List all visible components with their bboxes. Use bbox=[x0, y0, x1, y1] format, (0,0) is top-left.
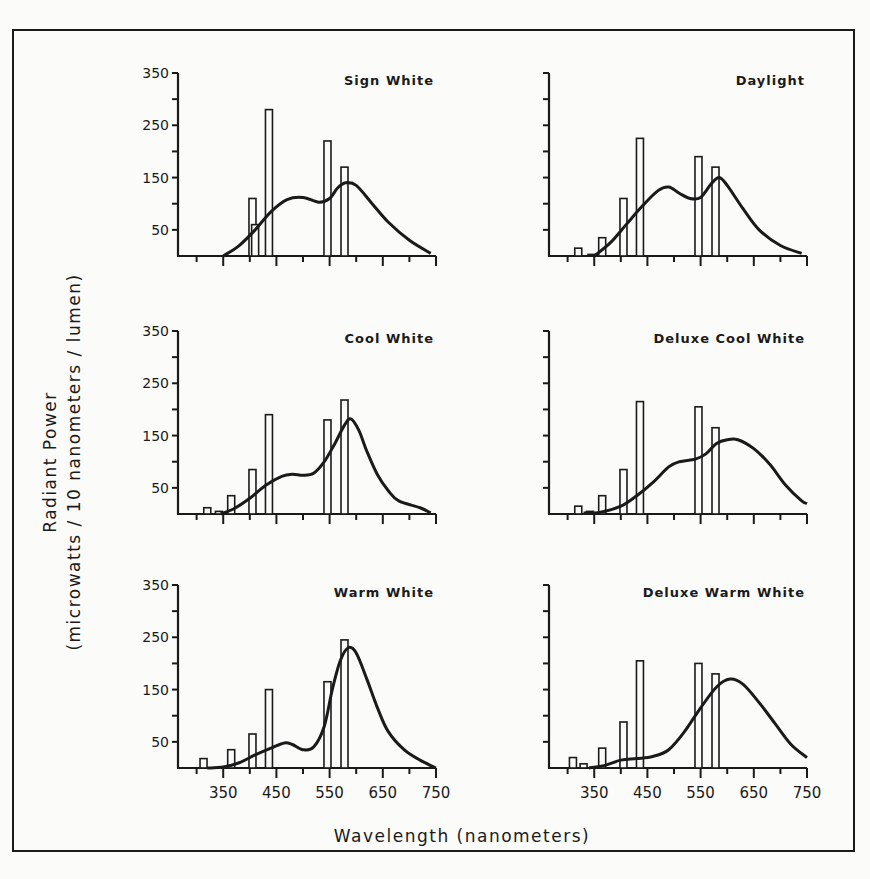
x-tick-label: 550 bbox=[315, 784, 344, 802]
panel-title: Deluxe Warm White bbox=[643, 585, 805, 600]
panel-title: Deluxe Cool White bbox=[653, 331, 805, 346]
x-tick-label: 550 bbox=[686, 784, 715, 802]
x-tick-label: 650 bbox=[368, 784, 397, 802]
spectral-line-bar bbox=[265, 415, 272, 514]
y-tick-label: 150 bbox=[142, 428, 169, 444]
spectral-line-bar bbox=[712, 428, 719, 514]
panel-title: Sign White bbox=[344, 73, 434, 88]
y-tick-label: 250 bbox=[142, 629, 169, 645]
x-tick-label: 750 bbox=[793, 784, 822, 802]
y-tick-label: 350 bbox=[142, 65, 169, 81]
y-tick-label: 50 bbox=[151, 222, 169, 238]
spectral-line-bar bbox=[569, 758, 576, 768]
spectral-line-bar bbox=[580, 764, 587, 768]
y-tick-label: 150 bbox=[142, 170, 169, 186]
spectral-line-bar bbox=[204, 508, 211, 514]
spectral-line-bar bbox=[341, 400, 348, 514]
spectral-line-bar bbox=[265, 110, 272, 256]
x-tick-label: 350 bbox=[209, 784, 238, 802]
panel-title: Warm White bbox=[334, 585, 434, 600]
spectral-plots: 35025015050Sign WhiteDaylight35025015050… bbox=[0, 0, 870, 879]
panel-cool-white: 35025015050Cool White bbox=[142, 323, 436, 524]
y-axis-label: Radiant Power (microwatts / 10 nanometer… bbox=[38, 273, 86, 650]
x-tick-label: 450 bbox=[262, 784, 291, 802]
panel-deluxe-cool-white: Deluxe Cool White bbox=[543, 331, 807, 524]
y-tick-label: 350 bbox=[142, 577, 169, 593]
spectral-line-bar bbox=[575, 248, 582, 256]
y-tick-label: 150 bbox=[142, 682, 169, 698]
spectral-line-bar bbox=[249, 734, 256, 768]
spectral-line-bar bbox=[265, 690, 272, 768]
spectral-line-bar bbox=[341, 167, 348, 256]
y-axis-label-line2: (microwatts / 10 nanometers / lumen) bbox=[62, 273, 86, 650]
spectral-line-bar bbox=[636, 138, 643, 256]
panel-sign-white: 35025015050Sign White bbox=[142, 65, 436, 266]
x-tick-label: 450 bbox=[633, 784, 662, 802]
x-tick-label: 750 bbox=[422, 784, 451, 802]
panel-warm-white: 35025015050350450550650750Warm White bbox=[142, 577, 450, 802]
panel-title: Cool White bbox=[345, 331, 434, 346]
y-tick-label: 50 bbox=[151, 480, 169, 496]
y-tick-label: 350 bbox=[142, 323, 169, 339]
spectral-line-bar bbox=[324, 420, 331, 514]
x-tick-label: 650 bbox=[739, 784, 768, 802]
x-axis-label: Wavelength (nanometers) bbox=[334, 826, 590, 846]
spectral-line-bar bbox=[636, 402, 643, 514]
spectral-line-bar bbox=[695, 157, 702, 256]
continuous-spectrum-curve bbox=[207, 647, 436, 768]
y-tick-label: 250 bbox=[142, 117, 169, 133]
panel-title: Daylight bbox=[736, 73, 805, 88]
y-axis-label-line1: Radiant Power bbox=[38, 273, 62, 650]
spectral-line-bar bbox=[636, 661, 643, 768]
spectral-line-bar bbox=[249, 470, 256, 514]
spectral-line-bar bbox=[575, 506, 582, 514]
spectral-line-bar bbox=[200, 759, 207, 768]
y-tick-label: 250 bbox=[142, 375, 169, 391]
panel-deluxe-warm-white: 350450550650750Deluxe Warm White bbox=[543, 585, 821, 802]
x-tick-label: 350 bbox=[580, 784, 609, 802]
y-tick-label: 50 bbox=[151, 734, 169, 750]
panel-daylight: Daylight bbox=[543, 73, 807, 266]
